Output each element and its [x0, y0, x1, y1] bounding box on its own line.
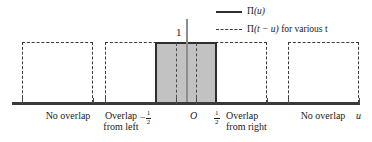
region-label-no-overlap-left: No overlap: [28, 110, 108, 121]
dashed-pulse-no-overlap-right: [288, 42, 359, 103]
dashed-pulse-no-overlap-left: [22, 42, 93, 103]
axis-tick: [359, 98, 360, 104]
legend-label-pi-t-minus-u: Π(t − u) for various t: [247, 24, 328, 35]
fraction-denominator: 2: [146, 119, 152, 127]
region-label-line2: from right: [226, 121, 267, 132]
legend-dashed-line-icon: [216, 29, 242, 30]
legend-item-pi-t-minus-u: Π(t − u) for various t: [216, 23, 368, 36]
fraction-denominator-right: 2: [214, 119, 220, 127]
legend-item-pi-u: Π(u): [216, 5, 368, 18]
axis-tick: [93, 98, 94, 104]
region-label-line1: Overlap: [226, 110, 258, 121]
amplitude-label-one: 1: [176, 27, 182, 38]
legend-arg-2: (t − u): [254, 24, 279, 34]
inner-dashed-edge-left: [176, 43, 177, 103]
tick-label-one-half: 12: [214, 110, 220, 126]
region-label-line2: from left: [103, 121, 138, 132]
region-label-no-overlap-right: No overlap: [288, 110, 358, 121]
axis-tick: [105, 98, 106, 104]
convolution-overlap-figure: Π(u) Π(t − u) for various t 1 −12 O 12 u: [0, 0, 372, 142]
region-label-line1: No overlap: [301, 110, 346, 121]
inner-dashed-edge-right: [196, 43, 197, 103]
region-label-line1: No overlap: [46, 110, 91, 121]
legend: Π(u) Π(t − u) for various t: [216, 5, 368, 36]
legend-label-pi-u: Π(u): [247, 6, 265, 17]
legend-symbol-pi-2: Π: [247, 24, 254, 34]
legend-arg: (u): [254, 6, 265, 16]
region-label-overlap-from-left: Overlap from left: [98, 110, 144, 132]
legend-symbol-pi: Π: [247, 6, 254, 16]
legend-suffix: for various t: [279, 24, 328, 34]
axis-tick: [267, 98, 268, 104]
origin-label: O: [190, 110, 197, 121]
axis-tick: [196, 98, 197, 104]
y-axis: [186, 19, 188, 103]
x-axis: [12, 102, 360, 105]
fraction-one-half-right: 12: [214, 110, 220, 126]
region-label-line1: Overlap: [105, 110, 137, 121]
legend-solid-line-icon: [216, 11, 242, 13]
region-label-overlap-from-right: Overlap from right: [226, 110, 282, 132]
axis-tick: [288, 98, 289, 104]
fraction-one-half-left: 12: [146, 110, 152, 126]
axis-tick: [176, 98, 177, 104]
axis-tick: [22, 98, 23, 104]
